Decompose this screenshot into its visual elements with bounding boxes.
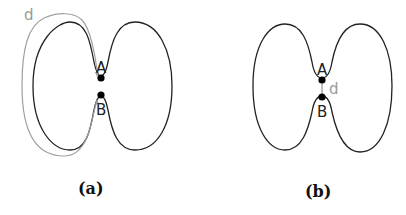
figure-b: A B d (b) (253, 24, 392, 201)
point-b-fig-a (97, 91, 104, 98)
caption-b: (b) (305, 182, 331, 201)
label-b-fig-a: B (96, 101, 106, 119)
diagram-canvas: A B d (a) A B d (b) (0, 0, 406, 215)
label-a-fig-b: A (317, 61, 328, 79)
label-b-fig-b: B (317, 103, 327, 121)
label-d-fig-a: d (24, 6, 34, 24)
figure-a: A B d (a) (22, 6, 172, 198)
caption-a: (a) (78, 179, 104, 198)
label-d-fig-b: d (329, 80, 339, 98)
point-b-fig-b (318, 93, 325, 100)
label-a-fig-a: A (96, 59, 107, 77)
